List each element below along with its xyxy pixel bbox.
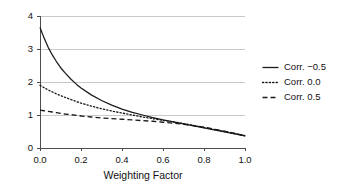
chart-legend: Corr. −0.5Corr. 0.0Corr. 0.5 [262,60,338,105]
x-tick-label: 1.0 [232,155,258,165]
x-axis-title: Weighting Factor [40,170,246,181]
series-line-2 [40,110,245,136]
legend-line-sample-dashed [262,92,279,102]
legend-line-sample-solid [262,62,279,72]
y-tick-label: 2 [17,77,33,87]
x-tick-label: 0.4 [109,155,135,165]
legend-label: Corr. 0.5 [284,92,320,102]
x-tick-label: 0.2 [68,155,94,165]
y-tick-label: 4 [17,11,33,21]
x-tick-label: 0.0 [27,155,53,165]
legend-label: Corr. 0.0 [284,77,320,87]
y-tick-label: 1 [17,110,33,120]
x-tick-label: 0.6 [150,155,176,165]
legend-item: Corr. −0.5 [262,60,338,73]
legend-item: Corr. 0.0 [262,75,338,88]
y-tick-label: 0 [17,143,33,153]
y-tick-label: 3 [17,44,33,54]
tick-marks [37,16,245,151]
legend-item: Corr. 0.5 [262,90,338,103]
legend-line-sample-dotted [262,77,279,87]
x-tick-label: 0.8 [191,155,217,165]
legend-label: Corr. −0.5 [284,62,326,72]
series-line-1 [40,85,245,135]
chart-figure: 01234 0.00.20.40.60.81.0 Weighting Facto… [0,0,339,192]
